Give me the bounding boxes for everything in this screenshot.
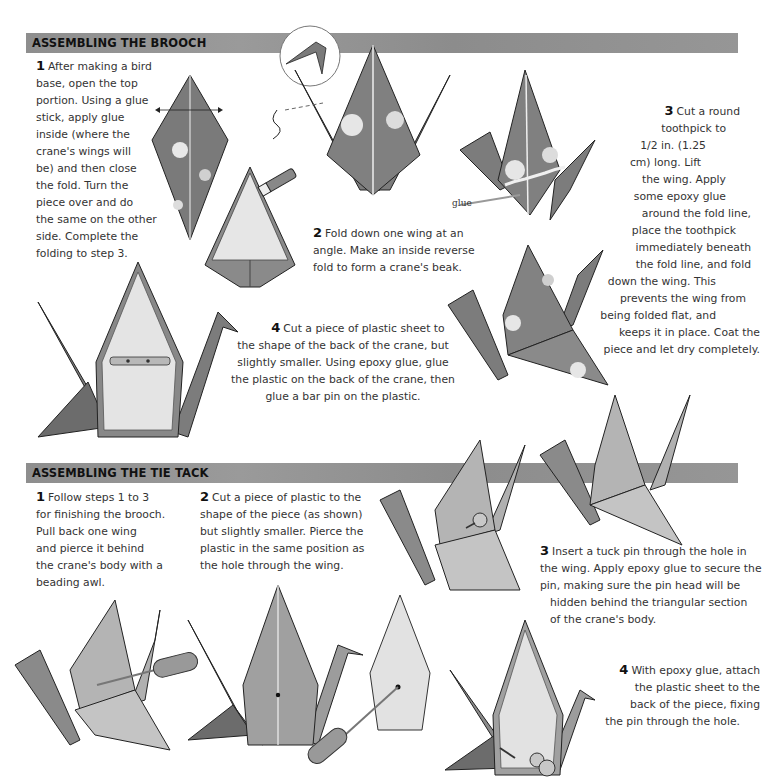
crane-step-2-illustration: [285, 45, 460, 205]
crane-bar-pin-illustration: [38, 262, 238, 440]
plastic-piece-awl-illustration: [300, 595, 435, 770]
tie-tack-step-4: 4With epoxy glue, attach the plastic she…: [595, 661, 766, 730]
tie-tack-crane-right-illustration: [540, 395, 695, 545]
section-title: ASSEMBLING THE TIE TACK: [32, 466, 209, 480]
crane-tuck-pin-illustration: [435, 620, 595, 775]
tie-tack-crane-pin-illustration: [380, 440, 530, 590]
tie-tack-step-2: 2Cut a piece of plastic to the shape of …: [200, 488, 380, 574]
section-title: ASSEMBLING THE BROOCH: [32, 36, 206, 50]
tie-tack-step-1: 1Follow steps 1 to 3 for finishing the b…: [36, 488, 186, 591]
crane-glue-illustration: [460, 70, 595, 220]
brooch-step-3: 3Cut a round toothpick to 1/2 in. (1.25 …: [590, 102, 766, 358]
glue-label: glue: [452, 198, 472, 208]
tie-tack-step-3: 3Insert a tuck pin through the hole in t…: [540, 542, 766, 628]
finished-crane-illustration: [448, 245, 608, 385]
step-number: 1: [36, 58, 45, 73]
crane-awl-illustration: [15, 590, 195, 755]
brooch-step-4: 4Cut a piece of plastic sheet to the sha…: [218, 319, 468, 405]
